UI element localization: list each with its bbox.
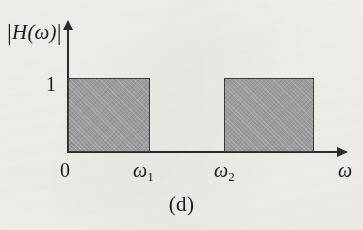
figure-caption: (d) (0, 192, 363, 217)
passband-rect-low (68, 78, 150, 152)
x-axis-variable-label: ω (338, 160, 352, 180)
y-axis-tick-label-1: 1 (46, 74, 56, 94)
x-axis-tick-label-omega2: ω2 (214, 160, 235, 180)
x-axis-origin-label: 0 (60, 160, 70, 180)
x-axis-tick-label-omega1: ω1 (133, 160, 154, 180)
y-axis-label-open-bar: | (7, 19, 12, 45)
omega2-symbol: ω (214, 159, 228, 181)
y-axis-label-close-bar: | (57, 19, 62, 45)
omega1-subscript: 1 (147, 169, 154, 184)
y-axis-arrow-icon (63, 20, 73, 30)
y-axis-label-text: H(ω) (12, 20, 57, 44)
passband-rect-high (224, 78, 314, 152)
omega2-subscript: 2 (228, 169, 235, 184)
frequency-response-figure: |H(ω)| 1 0 ω1 ω2 ω (d) (0, 0, 363, 230)
x-axis-arrow-icon (337, 147, 348, 157)
omega1-symbol: ω (133, 159, 147, 181)
y-axis-label: |H(ω)| (7, 19, 62, 43)
